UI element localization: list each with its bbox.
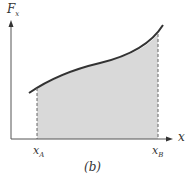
x-b-label: xB bbox=[152, 144, 163, 159]
x-axis-label: x bbox=[178, 130, 185, 144]
figure-caption: (b) bbox=[84, 160, 101, 174]
x-axis-arrow-icon bbox=[166, 137, 173, 142]
y-axis-label: Fx bbox=[7, 2, 19, 18]
x-a-label: xA bbox=[33, 144, 44, 159]
work-area-fill bbox=[37, 34, 158, 139]
y-axis-arrow-icon bbox=[9, 20, 14, 27]
